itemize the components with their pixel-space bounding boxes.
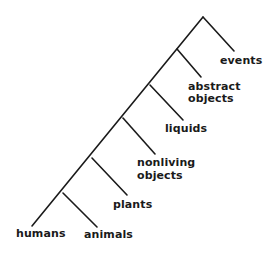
label-line: humans (16, 227, 66, 240)
branch-events (203, 17, 234, 51)
label-line: objects (137, 170, 195, 181)
label-events: events (220, 55, 262, 66)
label-line: plants (113, 198, 152, 211)
label-line: nonliving (137, 157, 195, 168)
branch-abstract-objects (177, 49, 201, 77)
tree-lines (0, 0, 274, 255)
label-line: abstract (188, 81, 241, 92)
label-plants: plants (113, 199, 152, 210)
label-abstract-objects: abstract objects (188, 81, 241, 104)
branch-plants (92, 158, 127, 195)
tree-diagram: events abstract objects liquids nonlivin… (0, 0, 274, 255)
branch-animals (63, 193, 97, 227)
label-line: animals (84, 228, 133, 241)
label-line: objects (188, 93, 241, 104)
label-animals: animals (84, 229, 133, 240)
branch-nonliving-objects (123, 118, 155, 154)
label-line: events (220, 54, 262, 67)
label-humans: humans (16, 228, 66, 239)
label-line: liquids (165, 122, 207, 135)
branch-liquids (150, 85, 183, 120)
label-liquids: liquids (165, 123, 207, 134)
label-nonliving-objects: nonliving objects (137, 157, 195, 181)
